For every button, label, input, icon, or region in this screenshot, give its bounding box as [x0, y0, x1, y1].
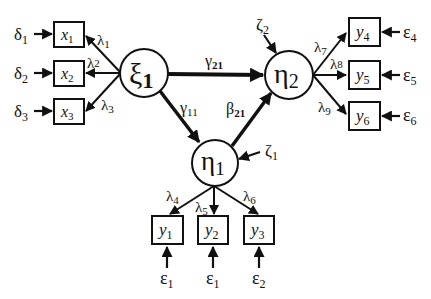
error-eps2-label: ε2: [252, 268, 266, 291]
disturbance-zeta2-label: ζ2: [256, 15, 269, 37]
structural-paths: [160, 74, 271, 146]
path-gamma11-label: γ11: [179, 99, 198, 118]
loading-lambda7-label: λ7: [314, 39, 327, 57]
error-eps1a-label: ε1: [160, 268, 174, 291]
error-eps5-label: ε5: [403, 65, 417, 88]
disturbance-zeta1-arrow: [239, 152, 260, 159]
loading-lambda2-label: λ2: [87, 55, 100, 71]
path-gamma21-arrow: [168, 74, 263, 75]
error-delta3-label: δ3: [14, 102, 28, 124]
loading-lambda5-label: λ5: [195, 199, 208, 217]
path-beta21-label: β21: [226, 100, 245, 119]
loading-lambda3-label: λ3: [101, 97, 114, 115]
loading-lambda1-label: λ1: [97, 32, 110, 50]
disturbance-zeta2-arrow: [264, 35, 276, 53]
error-delta2-label: δ2: [14, 64, 28, 86]
loading-lambda6-label: λ6: [243, 188, 256, 206]
loading-lambda9-label: λ9: [318, 99, 331, 117]
loading-lambda4-label: λ4: [166, 188, 179, 206]
sem-diagram: ξ1 η2 η1 x1 x2 x3 y4 y5 y6 y1 y2 y3 δ1 δ…: [0, 0, 431, 299]
path-beta21-arrow: [232, 93, 271, 146]
path-gamma21-label: γ21: [204, 52, 223, 71]
error-delta1-label: δ1: [14, 25, 28, 47]
loading-lambda8-label: λ8: [330, 56, 343, 72]
error-eps6-label: ε6: [403, 105, 417, 128]
error-eps1b-label: ε1: [206, 268, 220, 291]
disturbance-zeta1-label: ζ1: [265, 141, 278, 163]
error-eps4-label: ε4: [403, 22, 417, 45]
